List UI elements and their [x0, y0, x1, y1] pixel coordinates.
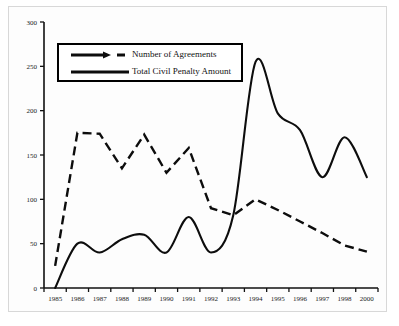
- x-axis-tick-label: 1992: [204, 295, 219, 303]
- x-axis-tick-label: 1997: [315, 295, 330, 303]
- chart-legend: Number of Agreements Total Civil Penalty…: [57, 43, 243, 82]
- y-axis-tick-label: 50: [30, 240, 38, 248]
- legend-label-number-of-agreements: Number of Agreements: [132, 50, 216, 59]
- legend-item-number-of-agreements: Number of Agreements: [67, 46, 241, 63]
- x-axis-tick-label: 1987: [93, 295, 108, 303]
- x-axis-tick-label: 1985: [48, 295, 63, 303]
- x-axis-tick-label: 1995: [271, 295, 286, 303]
- y-axis-tick-label: 200: [27, 107, 38, 115]
- x-axis-tick-label: 1996: [293, 295, 308, 303]
- series-line-total-civil-penalty-amount: [55, 59, 367, 288]
- x-axis: 1985198619871988198919901991199219931994…: [44, 288, 378, 303]
- x-axis-tick-label: 1998: [338, 295, 353, 303]
- y-axis: 050100150200250300: [27, 19, 45, 293]
- series-line-number-of-agreements: [55, 133, 367, 266]
- x-axis-tick-label: 1990: [159, 295, 174, 303]
- y-axis-tick-label: 100: [27, 196, 38, 204]
- x-axis-tick-label: 1988: [115, 295, 130, 303]
- y-axis-tick-label: 300: [27, 19, 38, 27]
- legend-item-total-civil-penalty-amount: Total Civil Penalty Amount: [67, 63, 241, 80]
- x-axis-tick-label: 1994: [249, 295, 264, 303]
- x-axis-tick-label: 1993: [226, 295, 241, 303]
- x-axis-tick-label: 2000: [360, 295, 375, 303]
- x-axis-ticks: 1985198619871988198919901991199219931994…: [44, 288, 378, 303]
- y-axis-ticks: 050100150200250300: [27, 19, 45, 293]
- chart-figure: 050100150200250300 198519861987198819891…: [0, 0, 399, 326]
- legend-label-total-civil-penalty-amount: Total Civil Penalty Amount: [132, 67, 231, 76]
- y-axis-tick-label: 150: [27, 152, 38, 160]
- x-axis-tick-label: 1991: [182, 295, 197, 303]
- y-axis-tick-label: 250: [27, 63, 38, 71]
- x-axis-tick-label: 1986: [70, 295, 85, 303]
- legend-swatch-dashed-icon: [67, 48, 129, 62]
- x-axis-tick-label: 1989: [137, 295, 152, 303]
- legend-swatch-solid-icon: [67, 65, 129, 79]
- y-axis-tick-label: 0: [34, 285, 38, 293]
